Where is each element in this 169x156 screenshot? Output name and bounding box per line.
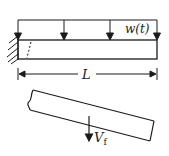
cantilever-beam-figure: w(t) L [7,20,161,82]
free-body-segment-figure: Vf [28,90,154,147]
shear-label-sub: f [103,137,107,147]
fixed-wall-support [7,34,18,64]
load-label: w(t) [125,22,150,36]
beam-body [18,40,157,59]
shear-force-arrow [86,116,93,141]
length-label: L [81,67,91,82]
shear-force-label: Vf [94,130,107,147]
section-cut-line [27,42,31,58]
beam-diagram: w(t) L Vf [0,0,169,156]
tilted-beam-segment [28,90,154,141]
